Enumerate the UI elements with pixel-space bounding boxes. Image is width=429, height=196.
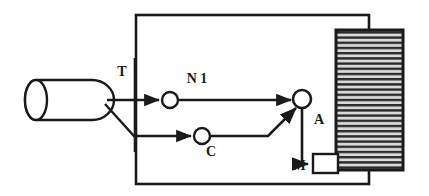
label-node-c: C [206, 144, 216, 159]
hatched-block [336, 30, 403, 170]
link-c-to-a [211, 108, 296, 136]
label-node-a: A [314, 112, 325, 127]
label-node-n1: N 1 [187, 71, 208, 86]
label-box-m: M [292, 158, 305, 173]
link-tank-to-c [105, 104, 191, 136]
diagram-canvas: T N 1 C A M [0, 0, 429, 196]
box-m [313, 154, 338, 173]
link-a-to-m [302, 108, 308, 164]
node-c [194, 128, 210, 144]
label-junction-t: T [117, 64, 127, 79]
node-n1 [162, 92, 178, 108]
schematic-diagram: T N 1 C A M [0, 0, 429, 196]
node-a [293, 90, 311, 108]
cylinder-tank [25, 80, 114, 120]
